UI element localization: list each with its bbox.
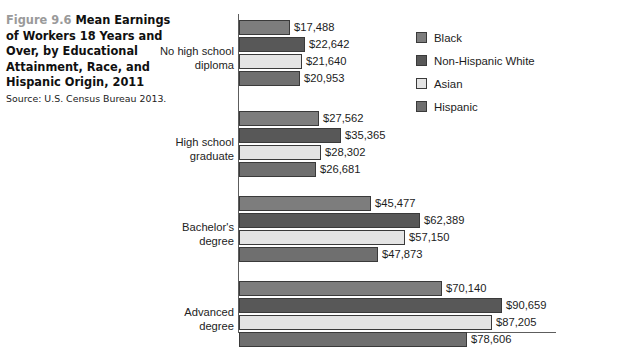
bar-black[interactable] — [239, 281, 442, 296]
bar-asian[interactable] — [239, 54, 302, 69]
bar-row: $45,477 — [239, 196, 556, 211]
bar-value-label: $78,606 — [467, 332, 511, 347]
bar-hispanic[interactable] — [239, 162, 316, 177]
legend-swatch-icon — [416, 101, 427, 112]
bar-value-label: $20,953 — [300, 71, 344, 86]
bar-row: $35,365 — [239, 128, 556, 143]
bar-value-label: $47,873 — [378, 247, 422, 262]
bar-value-label: $27,562 — [319, 111, 363, 126]
bar-row: $90,659 — [239, 298, 556, 313]
bar-value-label: $17,488 — [290, 20, 334, 35]
bar-value-label: $62,389 — [420, 213, 464, 228]
legend-swatch-icon — [416, 55, 427, 66]
bar-value-label: $70,140 — [442, 281, 486, 296]
legend-item[interactable]: Non-Hispanic White — [416, 51, 535, 70]
bar-non-hispanic-white[interactable] — [239, 213, 420, 228]
bar-value-label: $21,640 — [302, 54, 346, 69]
bar-value-label: $90,659 — [502, 298, 546, 313]
bar-value-label: $26,681 — [316, 162, 360, 177]
legend-item[interactable]: Asian — [416, 74, 535, 93]
bar-group: High school graduate$27,562$35,365$28,30… — [239, 111, 556, 179]
bar-hispanic[interactable] — [239, 247, 378, 262]
bar-row: $70,140 — [239, 281, 556, 296]
bar-asian[interactable] — [239, 145, 321, 160]
legend-label: Black — [434, 32, 462, 44]
caption-source: Source: U.S. Census Bureau 2013. — [6, 92, 178, 105]
bar-group: Bachelor's degree$45,477$62,389$57,150$4… — [239, 196, 556, 264]
bar-row: $62,389 — [239, 213, 556, 228]
bar-value-label: $35,365 — [341, 128, 385, 143]
bar-hispanic[interactable] — [239, 71, 300, 86]
chart-legend: BlackNon-Hispanic WhiteAsianHispanic — [416, 28, 535, 120]
legend-item[interactable]: Hispanic — [416, 97, 535, 116]
legend-label: Asian — [434, 78, 463, 90]
bar-row: $87,205 — [239, 315, 556, 330]
bar-value-label: $45,477 — [371, 196, 415, 211]
category-label: Bachelor's degree — [114, 220, 234, 248]
bar-non-hispanic-white[interactable] — [239, 37, 305, 52]
bar-value-label: $57,150 — [405, 230, 449, 245]
legend-item[interactable]: Black — [416, 28, 535, 47]
bar-row: $47,873 — [239, 247, 556, 262]
bar-row: $57,150 — [239, 230, 556, 245]
legend-label: Non-Hispanic White — [434, 55, 535, 67]
category-label: Advanced degree — [114, 305, 234, 333]
bar-hispanic[interactable] — [239, 332, 467, 347]
category-label: No high school diploma — [114, 44, 234, 72]
bar-black[interactable] — [239, 111, 319, 126]
bar-black[interactable] — [239, 20, 290, 35]
bar-row: $78,606 — [239, 332, 556, 347]
bar-asian[interactable] — [239, 230, 405, 245]
bar-non-hispanic-white[interactable] — [239, 298, 502, 313]
bar-row: $26,681 — [239, 162, 556, 177]
legend-swatch-icon — [416, 78, 427, 89]
bar-asian[interactable] — [239, 315, 492, 330]
figure-number: Figure 9.6 — [6, 13, 71, 27]
bar-value-label: $28,302 — [321, 145, 365, 160]
legend-label: Hispanic — [434, 101, 478, 113]
legend-swatch-icon — [416, 32, 427, 43]
bar-value-label: $87,205 — [492, 315, 536, 330]
bar-row: $28,302 — [239, 145, 556, 160]
bar-value-label: $22,642 — [305, 37, 349, 52]
bar-black[interactable] — [239, 196, 371, 211]
bar-group: Advanced degree$70,140$90,659$87,205$78,… — [239, 281, 556, 347]
category-label: High school graduate — [114, 135, 234, 163]
bar-non-hispanic-white[interactable] — [239, 128, 341, 143]
